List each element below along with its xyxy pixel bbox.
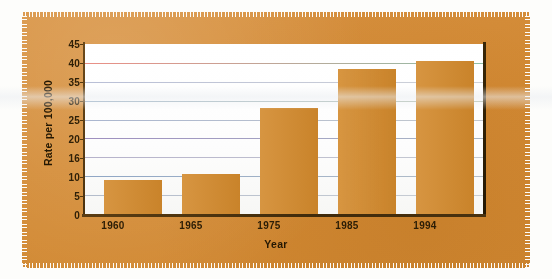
plot-area bbox=[84, 44, 484, 214]
plot-right-border bbox=[483, 42, 486, 217]
x-axis-line bbox=[82, 214, 486, 217]
x-tick-label-1965: 1965 bbox=[162, 220, 220, 231]
x-tick-label-1960: 1960 bbox=[84, 220, 142, 231]
y-tick-label: 5 bbox=[50, 192, 80, 202]
y-tick-label: 0 bbox=[50, 211, 80, 221]
y-tick-label: 45 bbox=[50, 40, 80, 50]
y-axis-tick-labels: 45 40 35 30 25 20 16 10 5 0 bbox=[44, 12, 80, 268]
x-tick-label-1975: 1975 bbox=[240, 220, 298, 231]
y-tick-label: 10 bbox=[50, 173, 80, 183]
bar-chart: Rate per 100,000 45 40 35 30 25 20 16 10… bbox=[22, 12, 530, 268]
bar-1965 bbox=[182, 174, 240, 214]
y-tick-label: 30 bbox=[50, 97, 80, 107]
y-tick-label: 25 bbox=[50, 116, 80, 126]
x-tick-label-1985: 1985 bbox=[318, 220, 376, 231]
y-axis-line bbox=[83, 42, 85, 216]
x-tick-label-1994: 1994 bbox=[396, 220, 454, 231]
y-tick-label: 16 bbox=[50, 154, 80, 164]
bar-1960 bbox=[104, 180, 162, 214]
scanned-chart-page: Rate per 100,000 45 40 35 30 25 20 16 10… bbox=[0, 0, 552, 279]
y-tick-label: 20 bbox=[50, 135, 80, 145]
bar-1994 bbox=[416, 61, 474, 214]
y-tick-label: 40 bbox=[50, 59, 80, 69]
bar-1975 bbox=[260, 108, 318, 214]
bar-1985 bbox=[338, 69, 396, 214]
x-axis-title: Year bbox=[22, 238, 530, 250]
y-tick-label: 35 bbox=[50, 78, 80, 88]
